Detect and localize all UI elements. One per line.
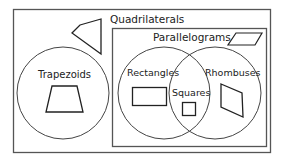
- rectangles-label: Rectangles: [127, 67, 179, 78]
- squares-label: Squares: [172, 87, 210, 98]
- trapezoid-shape-icon: [46, 86, 83, 112]
- quadrilaterals-box: [14, 10, 271, 153]
- parallelogram-shape-icon: [228, 33, 262, 45]
- trapezoids-circle: [17, 47, 109, 139]
- rhombus-shape-icon: [221, 84, 243, 117]
- square-shape-icon: [183, 103, 196, 116]
- parallelograms-label: Parallelograms: [153, 31, 231, 43]
- quadrilaterals-diagram: Quadrilaterals Parallelograms Trapezoids…: [0, 0, 284, 163]
- quadrilaterals-label: Quadrilaterals: [110, 13, 184, 25]
- trapezoids-label: Trapezoids: [37, 69, 91, 80]
- rhombuses-label: Rhombuses: [205, 67, 261, 78]
- rectangle-shape-icon: [133, 88, 167, 106]
